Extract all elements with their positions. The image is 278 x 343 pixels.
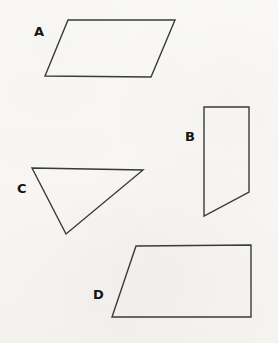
shape-d-right-trapezoid [112,245,251,317]
shape-label-c: C [17,182,27,195]
shape-label-a: A [34,25,44,38]
shape-b-trapezoid [204,107,249,216]
geometry-figure: A B C D [0,0,278,343]
shape-label-d: D [93,288,104,301]
shape-a-parallelogram [45,20,175,77]
shape-label-b: B [185,130,195,143]
shape-canvas [0,0,278,343]
shape-c-triangle [32,168,143,234]
